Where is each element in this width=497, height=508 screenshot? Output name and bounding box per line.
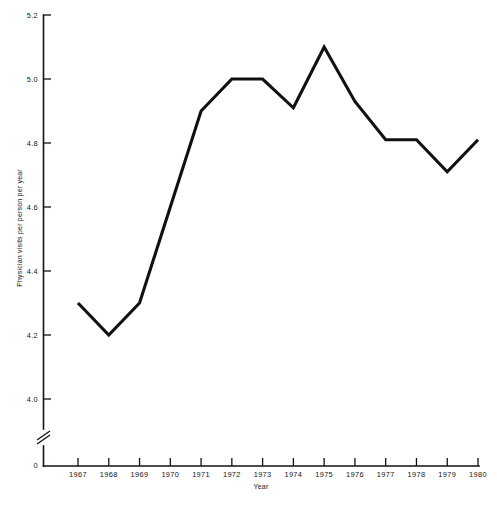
x-tick-label-11: 1978 bbox=[408, 470, 426, 479]
data-series-line bbox=[78, 47, 478, 335]
x-tick-label-4: 1971 bbox=[192, 470, 210, 479]
y-axis-title: Physician visits per person per year bbox=[16, 169, 24, 287]
x-tick-label-6: 1973 bbox=[254, 470, 272, 479]
x-tick-label-9: 1976 bbox=[346, 470, 364, 479]
y-axis-ticks bbox=[44, 15, 52, 399]
x-tick-label-1: 1968 bbox=[100, 470, 118, 479]
x-tick-label-5: 1972 bbox=[223, 470, 241, 479]
x-tick-label-7: 1974 bbox=[284, 470, 302, 479]
x-tick-label-12: 1979 bbox=[438, 470, 456, 479]
x-tick-label-8: 1975 bbox=[315, 470, 333, 479]
y-tick-label-3: 4.6 bbox=[27, 203, 38, 212]
y-tick-label-1: 5.0 bbox=[27, 75, 38, 84]
y-tick-label-5: 4.2 bbox=[27, 331, 38, 340]
y-axis-break-icon bbox=[37, 431, 50, 444]
x-tick-label-10: 1977 bbox=[377, 470, 395, 479]
line-chart: 5.2 5.0 4.8 4.6 4.4 4.2 4.0 0 1967196819… bbox=[0, 0, 497, 508]
x-axis-title: Year bbox=[254, 483, 269, 490]
x-tick-label-3: 1970 bbox=[161, 470, 179, 479]
y-tick-label-7: 0 bbox=[34, 461, 38, 470]
y-tick-label-0: 5.2 bbox=[27, 11, 38, 20]
x-tick-label-0: 1967 bbox=[69, 470, 87, 479]
y-tick-label-6: 4.0 bbox=[27, 395, 38, 404]
x-tick-label-13: 1980 bbox=[469, 470, 487, 479]
x-axis-ticks bbox=[78, 458, 478, 466]
x-axis-tick-labels: 1967196819691970197119721973197419751976… bbox=[69, 470, 487, 479]
y-tick-label-4: 4.4 bbox=[27, 267, 38, 276]
chart-container: 5.2 5.0 4.8 4.6 4.4 4.2 4.0 0 1967196819… bbox=[0, 0, 497, 508]
x-tick-label-2: 1969 bbox=[131, 470, 149, 479]
y-tick-label-2: 4.8 bbox=[27, 139, 38, 148]
